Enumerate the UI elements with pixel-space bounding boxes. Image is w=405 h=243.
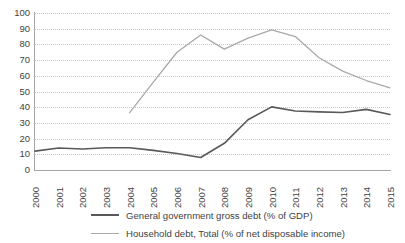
- legend-item-household-debt: Household debt, Total (% of net disposab…: [0, 224, 405, 242]
- series-line-general-government-gross-debt: [35, 107, 390, 158]
- chart-legend: General government gross debt (% of GDP)…: [0, 206, 405, 242]
- legend-swatch-icon-gov: [91, 214, 119, 216]
- legend-item-general-government-gross-debt: General government gross debt (% of GDP): [0, 206, 405, 224]
- legend-swatch-icon-household: [91, 233, 119, 234]
- line-chart: 1009080706050403020100 20002001200220032…: [0, 0, 405, 243]
- legend-label-household: Household debt, Total (% of net disposab…: [126, 228, 345, 239]
- legend-label-gov: General government gross debt (% of GDP): [126, 210, 313, 221]
- series-line-household-debt: [130, 30, 390, 113]
